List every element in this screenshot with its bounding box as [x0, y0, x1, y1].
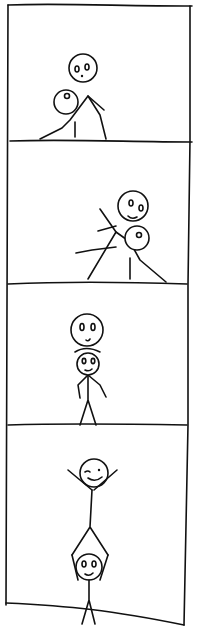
panel-borders — [6, 4, 192, 625]
panel-3 — [71, 314, 106, 425]
panel-1 — [40, 54, 106, 139]
comic-strip — [0, 0, 198, 638]
panel-2 — [76, 191, 166, 282]
panel-4 — [68, 459, 117, 624]
